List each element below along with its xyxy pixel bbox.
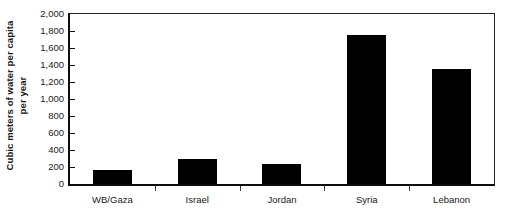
bar: [262, 164, 301, 184]
y-axis-title-line-2: per year: [17, 76, 28, 114]
y-axis-tick-label: 2,000: [28, 9, 64, 19]
y-axis-tick-mark: [70, 150, 75, 151]
x-axis-separator-tick: [240, 186, 241, 191]
y-axis-tick-mark: [70, 133, 75, 134]
plot-inner: [70, 14, 494, 184]
bar: [432, 69, 471, 184]
x-axis-category-label: Lebanon: [409, 194, 494, 206]
y-axis-tick-label: 800: [28, 111, 64, 121]
x-axis-separator-tick: [155, 186, 156, 191]
bar: [347, 35, 386, 184]
x-axis-category-label: WB/Gaza: [70, 194, 155, 206]
y-axis-tick-mark: [70, 65, 75, 66]
y-axis-tick-mark: [70, 167, 75, 168]
x-axis-category-label: Syria: [324, 194, 409, 206]
x-axis-category-label: Israel: [155, 194, 240, 206]
x-axis-separator-tick: [324, 186, 325, 191]
y-axis-tick-label: 1,000: [28, 94, 64, 104]
y-axis-title-line-1: Cubic meters of water per capita: [5, 20, 16, 170]
x-axis-separator-tick: [409, 186, 410, 191]
y-axis-tick-mark: [70, 31, 75, 32]
y-axis-tick-label: 200: [28, 162, 64, 172]
x-axis-category-label: Jordan: [240, 194, 325, 206]
y-axis-tick-mark: [70, 99, 75, 100]
bar-chart: Cubic meters of water per capita per yea…: [0, 0, 505, 218]
y-axis-tick-label: 1,400: [28, 60, 64, 70]
bar: [178, 159, 217, 184]
y-axis-tick-label: 1,200: [28, 77, 64, 87]
y-axis-tick-label: 1,600: [28, 43, 64, 53]
plot-area: [68, 13, 495, 186]
y-axis-tick-mark: [70, 48, 75, 49]
y-axis-tick-label: 400: [28, 145, 64, 155]
y-axis-tick-label: 600: [28, 128, 64, 138]
y-axis-tick-labels: 02004006008001,0001,2001,4001,6001,8002,…: [28, 7, 64, 192]
y-axis-tick-mark: [70, 116, 75, 117]
bar: [93, 170, 132, 184]
y-axis-tick-label: 0: [28, 179, 64, 189]
y-axis-tick-mark: [70, 82, 75, 83]
y-axis-tick-label: 1,800: [28, 26, 64, 36]
